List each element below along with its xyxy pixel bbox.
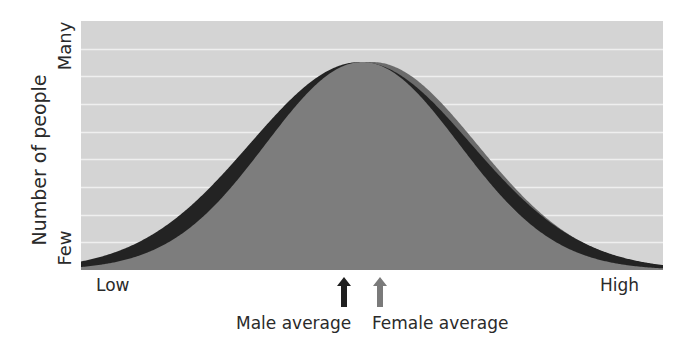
x-tick-high: High	[600, 275, 639, 295]
x-tick-low: Low	[96, 275, 130, 295]
y-tick-few: Few	[54, 230, 75, 265]
distribution-figure: Number of people Many Few Low High Male …	[0, 0, 681, 346]
female-average-arrow-icon	[373, 277, 387, 307]
male-average-label: Male average	[236, 313, 351, 333]
female-average-label: Female average	[372, 313, 508, 333]
y-axis-title: Number of people	[28, 74, 50, 245]
y-tick-many: Many	[54, 21, 75, 70]
male-average-arrow-icon	[337, 277, 351, 307]
